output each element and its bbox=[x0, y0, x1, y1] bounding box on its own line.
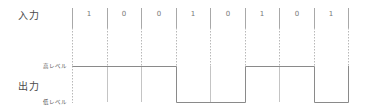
timing-diagram bbox=[0, 0, 369, 112]
inner-guides bbox=[108, 66, 280, 102]
bit-boundaries bbox=[73, 8, 349, 28]
